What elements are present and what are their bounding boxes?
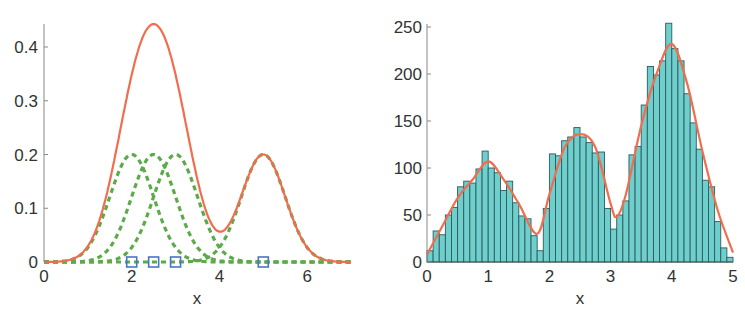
y-tick-label: 0.2 [14,146,38,165]
histogram-bar [586,143,592,262]
y-tick-label: 250 [394,18,422,37]
histogram-chart: 050100150200250 012345 x [394,18,738,308]
x-tick-label: 1 [483,267,492,286]
histogram-bar [580,137,586,262]
x-axis-label: x [193,289,202,308]
histogram-bar [494,173,500,262]
histogram-bar [482,151,488,262]
y-ticks: 00.10.20.30.4 [14,38,48,272]
y-tick-label: 200 [394,65,422,84]
histogram-bar [623,201,629,262]
x-tick-label: 0 [39,267,48,286]
histogram-bar [568,137,574,262]
histogram-bar [464,181,470,262]
x-tick-label: 3 [606,267,615,286]
histogram-bar [549,154,555,262]
histogram-bar [715,222,721,262]
x-tick-label: 6 [302,267,311,286]
histogram-bar [476,169,482,262]
histogram-bar [531,236,537,262]
kernel-density-chart: 00.10.20.30.4 0246 x [14,24,351,308]
figure: 00.10.20.30.4 0246 x 050100150200250 012… [0,0,745,318]
histogram-bar [488,168,494,262]
histogram-bar [721,248,727,262]
y-tick-label: 150 [394,112,422,131]
x-axis-label: x [576,289,585,308]
histogram-bar [604,208,610,262]
y-tick-label: 100 [394,159,422,178]
histogram-bar [684,94,690,262]
x-tick-label: 2 [545,267,554,286]
histogram-bar [690,123,696,262]
x-tick-label: 4 [215,267,224,286]
histogram-bar [574,128,580,262]
histogram-bar [660,61,666,262]
y-tick-label: 0 [413,253,422,272]
density-curve [44,24,351,262]
y-ticks: 050100150200250 [394,18,431,272]
histogram-bar [702,180,708,262]
x-tick-label: 5 [728,267,737,286]
y-tick-label: 0.3 [14,92,38,111]
histogram-bar [537,251,543,262]
y-tick-label: 0 [29,253,38,272]
histogram-bar [678,61,684,262]
histogram-bar [439,235,445,262]
y-tick-label: 0.4 [14,38,38,57]
histogram-bar [617,215,623,262]
histogram-bar [562,141,568,262]
histogram-bar [470,183,476,262]
histogram-bar [519,216,525,262]
histogram-bar [641,105,647,262]
histogram-bar [635,146,641,262]
x-tick-label: 4 [667,267,676,286]
histogram-bar [445,215,451,262]
histogram-bar [500,191,506,262]
histogram-bar [727,257,733,262]
histogram-bar [666,23,672,262]
histogram-bar [592,153,598,262]
histogram-bar [611,229,617,262]
x-tick-label: 0 [422,267,431,286]
x-ticks: 0246 [39,267,312,286]
histogram-bar [513,203,519,262]
histogram-bars [427,23,733,262]
histogram-bar [451,207,457,262]
histogram-bar [696,149,702,262]
histogram-bar [653,75,659,262]
y-tick-label: 0.1 [14,199,38,218]
y-tick-label: 50 [403,206,422,225]
x-tick-label: 2 [127,267,136,286]
x-ticks: 012345 [422,267,737,286]
histogram-bar [672,49,678,262]
